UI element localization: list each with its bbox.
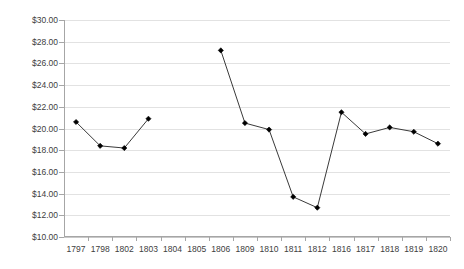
data-point-marker — [291, 194, 296, 199]
y-axis-tick — [59, 129, 64, 130]
y-axis-tick — [59, 107, 64, 108]
data-point-marker — [435, 141, 440, 146]
y-axis-tick — [59, 85, 64, 86]
y-axis-tick — [59, 215, 64, 216]
y-axis-tick — [59, 20, 64, 21]
data-point-marker — [411, 129, 416, 134]
data-series-layer — [0, 0, 464, 269]
y-axis-tick — [59, 172, 64, 173]
data-point-marker — [242, 120, 247, 125]
y-axis-tick — [59, 194, 64, 195]
chart-container: $30.00$28.00$26.00$24.00$22.00$20.00$18.… — [0, 0, 464, 269]
data-point-marker — [266, 127, 271, 132]
data-point-marker — [218, 48, 223, 53]
y-axis-tick — [59, 150, 64, 151]
y-axis-tick — [59, 237, 64, 238]
series-line — [76, 119, 148, 148]
data-point-marker — [387, 125, 392, 130]
y-axis-tick — [59, 42, 64, 43]
data-point-marker — [315, 205, 320, 210]
y-axis-tick — [59, 63, 64, 64]
series-line — [221, 50, 438, 207]
